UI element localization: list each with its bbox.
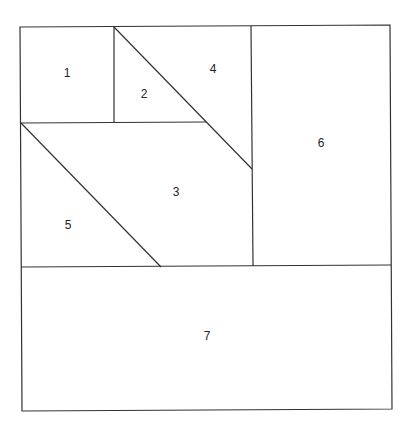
divider-top-row [20, 122, 206, 123]
outer-border [20, 25, 392, 411]
partition-diagram: 1 2 3 4 5 6 7 [0, 0, 410, 431]
region-label-5: 5 [65, 218, 72, 232]
region-label-6: 6 [318, 136, 325, 150]
region-label-4: 4 [210, 62, 217, 76]
diagonal-5-3 [21, 123, 161, 267]
region-label-7: 7 [204, 329, 211, 343]
region-label-3: 3 [173, 185, 180, 199]
region-label-2: 2 [141, 87, 148, 101]
diagram-canvas: 1 2 3 4 5 6 7 [0, 0, 410, 431]
region-label-1: 1 [64, 66, 71, 80]
divider-left-6 [251, 26, 253, 266]
diagonal-2-4 [114, 27, 252, 169]
divider-bottom-7 [21, 265, 391, 267]
